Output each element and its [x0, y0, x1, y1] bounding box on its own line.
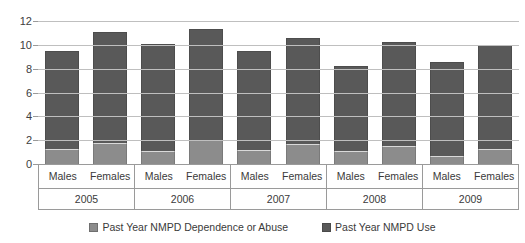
gender-label-row: MalesFemales: [327, 164, 422, 189]
bar-segment-dependence-or-abuse[interactable]: [45, 149, 79, 164]
gender-label: Females: [183, 164, 231, 188]
bar-segment-use[interactable]: [93, 32, 127, 143]
year-label: 2005: [39, 189, 134, 209]
bar-segment-use[interactable]: [382, 42, 416, 146]
bar-segment-use[interactable]: [478, 45, 512, 149]
bar-segment-use[interactable]: [237, 51, 271, 150]
axis-tick: [33, 140, 38, 141]
stacked-bar-chart: 024681012 MalesFemales2005MalesFemales20…: [0, 0, 525, 243]
bar-segment-dependence-or-abuse[interactable]: [237, 150, 271, 164]
bar-segment-use[interactable]: [430, 62, 464, 156]
year-label: 2007: [231, 189, 326, 209]
gender-label: Females: [375, 164, 423, 188]
gender-label: Males: [39, 164, 87, 188]
axis-tick: [33, 93, 38, 94]
y-tick-label: 8: [26, 63, 32, 74]
bar-segment-dependence-or-abuse[interactable]: [286, 144, 320, 164]
bar-segment-dependence-or-abuse[interactable]: [141, 151, 175, 164]
y-tick-label: 6: [26, 87, 32, 98]
bar-segment-use[interactable]: [141, 44, 175, 151]
gridline: [38, 45, 519, 46]
gender-label: Males: [135, 164, 183, 188]
legend-swatch-icon: [322, 223, 331, 232]
y-tick-label: 0: [26, 159, 32, 170]
bar-segment-dependence-or-abuse[interactable]: [334, 151, 368, 164]
bar-segment-dependence-or-abuse[interactable]: [478, 149, 512, 164]
gender-label: Females: [471, 164, 519, 188]
axis-tick: [33, 69, 38, 70]
gender-label: Males: [423, 164, 471, 188]
gender-label-row: MalesFemales: [39, 164, 134, 189]
gridline: [38, 140, 519, 141]
gender-label: Males: [231, 164, 279, 188]
bar-segment-dependence-or-abuse[interactable]: [430, 156, 464, 164]
category-cell-2009: MalesFemales2009: [423, 164, 518, 209]
category-axis: MalesFemales2005MalesFemales2006MalesFem…: [38, 164, 519, 210]
legend-item[interactable]: Past Year NMPD Dependence or Abuse: [89, 222, 288, 233]
year-label: 2008: [327, 189, 422, 209]
bar-segment-use[interactable]: [286, 38, 320, 144]
y-tick-label: 2: [26, 135, 32, 146]
axis-tick: [33, 116, 38, 117]
gender-label: Females: [87, 164, 135, 188]
bar-segment-use[interactable]: [45, 51, 79, 149]
bar-segment-dependence-or-abuse[interactable]: [189, 140, 223, 164]
y-tick-label: 12: [20, 16, 32, 27]
y-tick-label: 4: [26, 111, 32, 122]
axis-tick: [33, 21, 38, 22]
legend-item[interactable]: Past Year NMPD Use: [322, 222, 435, 233]
gridline: [38, 21, 519, 22]
legend-swatch-icon: [89, 223, 98, 232]
gender-label-row: MalesFemales: [423, 164, 518, 189]
category-cell-2007: MalesFemales2007: [231, 164, 327, 209]
gridline: [38, 93, 519, 94]
bar-segment-use[interactable]: [189, 29, 223, 140]
bar-segment-use[interactable]: [334, 66, 368, 151]
chart-legend: Past Year NMPD Dependence or AbusePast Y…: [0, 216, 525, 238]
category-cell-2005: MalesFemales2005: [39, 164, 135, 209]
gender-label-row: MalesFemales: [135, 164, 230, 189]
y-axis: 024681012: [0, 0, 38, 190]
year-label: 2009: [423, 189, 518, 209]
gender-label-row: MalesFemales: [231, 164, 326, 189]
bar-segment-dependence-or-abuse[interactable]: [382, 146, 416, 164]
plot-area: [38, 21, 519, 164]
axis-tick: [33, 45, 38, 46]
category-cell-2008: MalesFemales2008: [327, 164, 423, 209]
plot-region: 024681012: [0, 0, 525, 190]
year-label: 2006: [135, 189, 230, 209]
category-cell-2006: MalesFemales2006: [135, 164, 231, 209]
gridline: [38, 69, 519, 70]
legend-label: Past Year NMPD Dependence or Abuse: [102, 222, 288, 233]
gridline: [38, 116, 519, 117]
gender-label: Males: [327, 164, 375, 188]
gender-label: Females: [279, 164, 327, 188]
y-tick-label: 10: [20, 39, 32, 50]
legend-label: Past Year NMPD Use: [335, 222, 435, 233]
bar-segment-dependence-or-abuse[interactable]: [93, 143, 127, 164]
